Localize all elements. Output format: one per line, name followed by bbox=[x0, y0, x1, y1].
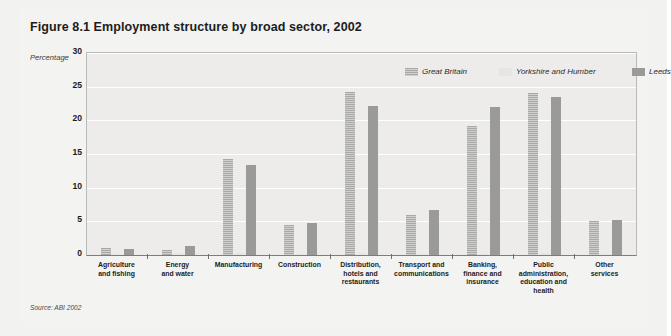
x-axis-label-line: services bbox=[574, 270, 635, 279]
x-axis-label-line: communications bbox=[391, 270, 452, 279]
bar-group bbox=[392, 53, 453, 255]
y-axis-tick-0: 0 bbox=[56, 248, 82, 258]
bar-group bbox=[270, 53, 331, 255]
x-axis-label-line: Transport and bbox=[391, 261, 452, 270]
bar bbox=[528, 93, 538, 255]
y-axis-tick-30: 30 bbox=[56, 46, 82, 56]
x-axis-label-line: Other bbox=[574, 261, 635, 270]
x-axis-tick bbox=[391, 254, 392, 259]
x-axis-label-line: administration, bbox=[513, 270, 574, 279]
bar bbox=[612, 220, 622, 255]
x-axis-label: Manufacturing bbox=[208, 261, 269, 270]
x-axis-label: Otherservices bbox=[574, 261, 635, 278]
x-axis-tick bbox=[574, 254, 575, 259]
bar bbox=[284, 225, 294, 255]
x-axis-label-line: and fishing bbox=[86, 270, 147, 279]
y-axis-tick-25: 25 bbox=[56, 80, 82, 90]
x-axis-label-line: Manufacturing bbox=[208, 261, 269, 270]
source-note: Source: ABI 2002 bbox=[30, 304, 81, 311]
figure-title: Figure 8.1 Employment structure by broad… bbox=[30, 20, 362, 34]
x-axis-label: Transport andcommunications bbox=[391, 261, 452, 278]
x-axis-label-line: and water bbox=[147, 270, 208, 279]
bar-group bbox=[331, 53, 392, 255]
x-axis-label-line: Construction bbox=[269, 261, 330, 270]
bar-group bbox=[453, 53, 514, 255]
bar bbox=[307, 223, 317, 255]
bar-group bbox=[87, 53, 148, 255]
x-axis-label-line: education and bbox=[513, 278, 574, 287]
x-axis-label: Distribution,hotels andrestaurants bbox=[330, 261, 391, 287]
bar-group bbox=[514, 53, 575, 255]
x-axis-label-line: Banking, bbox=[452, 261, 513, 270]
bar bbox=[490, 107, 500, 255]
legend-label: Leeds bbox=[649, 67, 671, 76]
x-axis-tick bbox=[269, 254, 270, 259]
figure-card: Figure 8.1 Employment structure by broad… bbox=[20, 8, 647, 326]
bar bbox=[246, 165, 256, 255]
x-axis-label: Energyand water bbox=[147, 261, 208, 278]
x-axis-label-line: insurance bbox=[452, 278, 513, 287]
x-axis-label-line: Energy bbox=[147, 261, 208, 270]
x-axis-label-line: restaurants bbox=[330, 278, 391, 287]
x-axis-label-line: hotels and bbox=[330, 270, 391, 279]
y-axis-tick-15: 15 bbox=[56, 147, 82, 157]
x-axis-tick bbox=[147, 254, 148, 259]
x-axis-label: Banking,finance andinsurance bbox=[452, 261, 513, 287]
bar bbox=[368, 106, 378, 255]
x-axis-tick bbox=[208, 254, 209, 259]
x-axis-label-line: Distribution, bbox=[330, 261, 391, 270]
bar bbox=[467, 126, 477, 255]
x-axis-label-line: Public bbox=[513, 261, 574, 270]
x-axis-tick bbox=[330, 254, 331, 259]
bar bbox=[551, 97, 561, 255]
x-axis-label-line: Agriculture bbox=[86, 261, 147, 270]
plot-area: Great BritainYorkshire and HumberLeeds bbox=[86, 52, 637, 256]
bar bbox=[429, 210, 439, 255]
bar-group bbox=[575, 53, 636, 255]
x-axis-label: Construction bbox=[269, 261, 330, 270]
bar-group bbox=[148, 53, 209, 255]
y-axis-tick-10: 10 bbox=[56, 181, 82, 191]
x-axis-label-line: finance and bbox=[452, 270, 513, 279]
bar bbox=[345, 92, 355, 255]
bar bbox=[589, 221, 599, 255]
y-axis-tick-5: 5 bbox=[56, 214, 82, 224]
bar-group bbox=[209, 53, 270, 255]
x-axis-tick bbox=[513, 254, 514, 259]
x-axis-label-line: health bbox=[513, 287, 574, 296]
bar-groups bbox=[87, 53, 636, 255]
bar bbox=[223, 159, 233, 255]
y-axis-tick-labels: 051015202530 bbox=[50, 52, 82, 254]
legend-entry-leeds: Leeds bbox=[632, 67, 671, 76]
bar bbox=[406, 215, 416, 255]
x-axis-tick bbox=[452, 254, 453, 259]
y-axis-tick-20: 20 bbox=[56, 113, 82, 123]
x-axis-label: Agricultureand fishing bbox=[86, 261, 147, 278]
x-axis: Agricultureand fishingEnergyand waterMan… bbox=[86, 254, 635, 306]
x-axis-label: Publicadministration,education andhealth bbox=[513, 261, 574, 295]
